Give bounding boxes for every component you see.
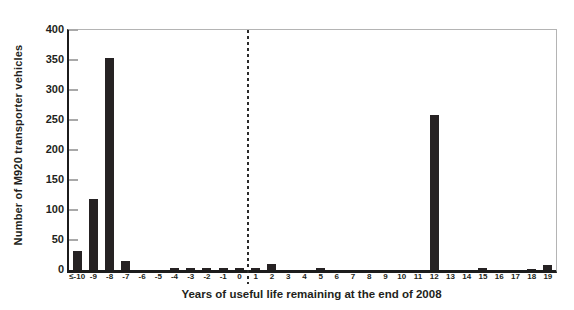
bar-12 <box>430 115 439 270</box>
bar--7 <box>121 261 130 270</box>
zero-divider-dashed-line <box>247 30 249 284</box>
bar-1 <box>251 268 260 270</box>
bar-19 <box>543 265 552 270</box>
y-tick-mark <box>69 59 78 61</box>
y-tick-mark <box>69 239 78 241</box>
bar--3 <box>186 268 195 270</box>
x-tick-label: 19 <box>536 272 560 281</box>
y-tick-label: 350 <box>30 54 64 64</box>
y-tick-mark <box>69 119 78 121</box>
bar-5 <box>316 268 325 270</box>
y-tick-label: 150 <box>30 174 64 184</box>
bar--8 <box>105 58 114 270</box>
y-tick-label: 0 <box>30 264 64 274</box>
y-tick-mark <box>69 89 78 91</box>
bar-15 <box>478 268 487 270</box>
y-tick-label: 100 <box>30 204 64 214</box>
bar-18 <box>527 269 536 270</box>
y-tick-label: 250 <box>30 114 64 124</box>
bar--1 <box>219 268 228 270</box>
bar-2 <box>267 264 276 270</box>
bar--9 <box>89 199 98 270</box>
y-tick-mark <box>69 209 78 211</box>
bar-≤-10 <box>73 251 82 270</box>
y-tick-label: 50 <box>30 234 64 244</box>
y-axis-title: Number of M920 transporter vehicles <box>12 31 24 259</box>
x-axis-title: Years of useful life remaining at the en… <box>67 288 556 300</box>
plot-area <box>67 29 557 273</box>
bar--2 <box>202 268 211 270</box>
y-tick-label: 400 <box>30 24 64 34</box>
y-tick-mark <box>69 149 78 151</box>
y-tick-mark <box>69 29 78 31</box>
y-tick-label: 300 <box>30 84 64 94</box>
bar--4 <box>170 268 179 270</box>
y-tick-label: 200 <box>30 144 64 154</box>
bar-0 <box>235 268 244 270</box>
m920-vehicles-bar-chart: Number of M920 transporter vehicles 0501… <box>0 0 574 310</box>
y-tick-mark <box>69 179 78 181</box>
